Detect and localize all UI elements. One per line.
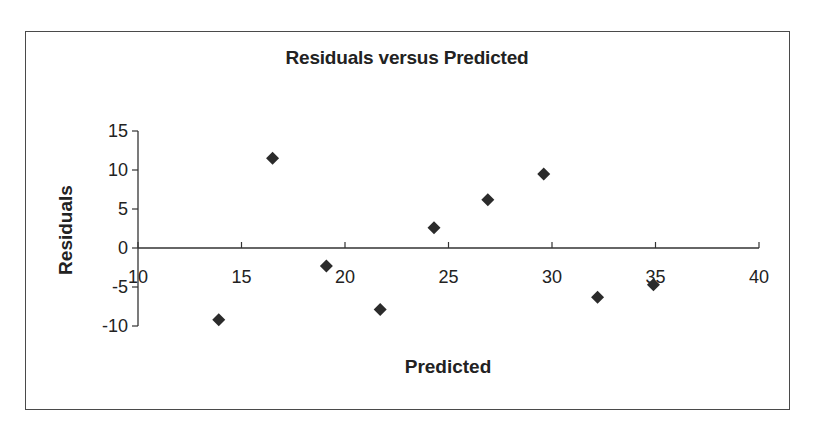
data-point-diamond [320, 259, 333, 272]
y-tick-label: 5 [118, 199, 128, 219]
data-point-diamond [591, 291, 604, 304]
y-tick-label: -10 [102, 316, 128, 336]
data-point-diamond [212, 313, 225, 326]
data-point-diamond [537, 167, 550, 180]
x-tick-label: 10 [128, 267, 148, 287]
y-axis-ticks: -10-5051015 [102, 121, 138, 336]
x-tick-label: 40 [749, 267, 769, 287]
scatter-plot: -10-5051015 10152025303540 [0, 0, 814, 430]
y-tick-label: -5 [112, 277, 128, 297]
x-tick-label: 20 [335, 267, 355, 287]
y-tick-label: 0 [118, 238, 128, 258]
y-tick-label: 15 [108, 121, 128, 141]
x-axis-ticks: 10152025303540 [128, 242, 769, 287]
y-tick-label: 10 [108, 160, 128, 180]
x-tick-label: 30 [542, 267, 562, 287]
data-point-diamond [428, 221, 441, 234]
data-point-diamond [266, 152, 279, 165]
data-points [212, 152, 660, 326]
x-tick-label: 15 [231, 267, 251, 287]
x-tick-label: 25 [438, 267, 458, 287]
axes [138, 131, 759, 326]
data-point-diamond [374, 303, 387, 316]
data-point-diamond [481, 193, 494, 206]
